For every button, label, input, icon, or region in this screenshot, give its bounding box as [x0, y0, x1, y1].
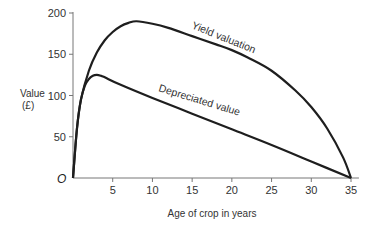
yield-valuation-label: Yield valuation [190, 19, 258, 56]
y-axis-unit: (£) [22, 100, 34, 111]
depreciated-value-label: Depreciated value [157, 81, 242, 117]
x-tick-label: 25 [265, 184, 277, 196]
x-tick-label: 30 [305, 184, 317, 196]
y-tick-label: 100 [48, 90, 66, 102]
y-axis: 50100150200 [48, 7, 73, 178]
x-tick-label: 35 [345, 184, 357, 196]
y-axis-title: Value [20, 88, 45, 99]
origin-label: O [57, 172, 66, 186]
depreciated-value-curve [73, 75, 351, 178]
x-tick-label: 20 [226, 184, 238, 196]
y-tick-label: 200 [48, 7, 66, 19]
x-axis-title: Age of crop in years [168, 208, 257, 219]
line-chart: 50100150200 5101520253035 O Value (£) Ag… [0, 0, 378, 227]
y-tick-label: 50 [54, 131, 66, 143]
x-tick-label: 15 [186, 184, 198, 196]
x-tick-label: 5 [110, 184, 116, 196]
x-axis: 5101520253035 [73, 178, 359, 196]
y-tick-label: 150 [48, 48, 66, 60]
x-tick-label: 10 [146, 184, 158, 196]
